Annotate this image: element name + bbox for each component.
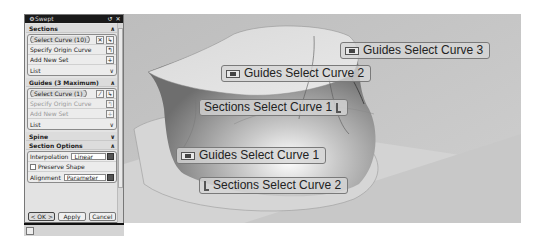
sections-select-curve[interactable]: Select Curve (10) (30, 36, 90, 43)
callout-guides-curve-2[interactable]: Guides Select Curve 2 (221, 65, 371, 82)
chevron-up-icon: ∧ (110, 79, 115, 86)
sections-select-curve-row[interactable]: Select Curve (10) ✕ ↳ (28, 35, 116, 45)
guides-list-row[interactable]: List ∨ (28, 119, 116, 129)
curve-select-icon (226, 70, 240, 78)
sections-specify-origin-row[interactable]: Specify Origin Curve ↰ (28, 45, 116, 55)
spine-group-header[interactable]: Spine ∨ (26, 132, 118, 141)
chevron-down-icon: ∨ (110, 121, 114, 128)
interpolation-select[interactable]: Linear (71, 153, 106, 160)
preserve-shape-checkbox[interactable] (30, 164, 36, 170)
origin-curve-icon[interactable]: ↰ (106, 46, 114, 54)
alignment-row: Alignment Parameter (28, 172, 116, 182)
graphics-viewport[interactable]: Guides Select Curve 3 Guides Select Curv… (124, 14, 521, 223)
curve-select-icon (181, 152, 195, 160)
dialog-titlebar[interactable]: ⚙ Swept ↺ ✕ (25, 15, 123, 23)
callout-sections-curve-2[interactable]: Sections Select Curve 2 (199, 177, 348, 194)
dialog-title: Swept (35, 15, 105, 23)
callout-sections-curve-1[interactable]: Sections Select Curve 1 (199, 99, 348, 116)
reverse-direction-icon[interactable]: ⁄ (96, 90, 104, 98)
cursor-icon (336, 103, 341, 113)
resource-bar-icon[interactable] (26, 227, 34, 235)
curve-select-icon (345, 47, 359, 55)
resource-bar (24, 225, 124, 236)
guides-specify-origin-row: Specify Origin Curve ↰ (28, 99, 116, 109)
curve-rule-icon[interactable]: ↳ (106, 90, 114, 98)
dialog-scrollbar[interactable] (117, 23, 123, 223)
chevron-up-icon: ∧ (110, 142, 115, 149)
callout-guides-curve-3[interactable]: Guides Select Curve 3 (340, 42, 490, 59)
alignment-select[interactable]: Parameter (64, 174, 106, 181)
chevron-up-icon: ∧ (110, 25, 115, 32)
sections-group: Select Curve (10) ✕ ↳ Specify Origin Cur… (27, 34, 117, 76)
dropdown-arrow-icon[interactable] (107, 174, 114, 181)
origin-curve-icon: ↰ (106, 100, 114, 108)
guides-group: Select Curve (1) ⁄ ↳ Specify Origin Curv… (27, 88, 117, 130)
close-icon[interactable]: ✕ (115, 16, 121, 22)
guides-group-header[interactable]: Guides (3 Maximum) ∧ (26, 78, 118, 87)
guides-add-new-set-row: Add New Set + (28, 109, 116, 119)
chevron-down-icon: ∨ (110, 133, 115, 140)
ok-button[interactable]: < OK > (28, 212, 55, 221)
sections-list-row[interactable]: List ∨ (28, 65, 116, 75)
reset-icon[interactable]: ↺ (107, 16, 113, 22)
reverse-direction-icon[interactable]: ✕ (96, 36, 104, 44)
scrollbar-thumb[interactable] (118, 28, 123, 188)
sections-group-header[interactable]: Sections ∧ (26, 24, 118, 33)
section-options-group: Interpolation Linear Preserve Shape Alig… (27, 151, 117, 183)
apply-button[interactable]: Apply (58, 212, 85, 221)
dialog-buttons: < OK > Apply Cancel (28, 212, 116, 221)
guides-select-curve[interactable]: Select Curve (1) (30, 90, 87, 97)
interpolation-row: Interpolation Linear (28, 152, 116, 162)
add-set-icon[interactable]: + (106, 56, 114, 64)
swept-dialog: ⚙ Swept ↺ ✕ Sections ∧ Select Curve (10)… (24, 14, 124, 223)
chevron-down-icon: ∨ (110, 67, 114, 74)
sections-add-new-set-row[interactable]: Add New Set + (28, 55, 116, 65)
guides-select-curve-row[interactable]: Select Curve (1) ⁄ ↳ (28, 89, 116, 99)
preserve-shape-row[interactable]: Preserve Shape (28, 162, 116, 172)
cancel-button[interactable]: Cancel (89, 212, 116, 221)
callout-guides-curve-1[interactable]: Guides Select Curve 1 (176, 147, 326, 164)
add-set-icon[interactable]: + (106, 110, 114, 118)
section-options-header[interactable]: Section Options ∧ (26, 141, 118, 150)
curve-rule-icon[interactable]: ↳ (106, 36, 114, 44)
cursor-icon (204, 181, 209, 191)
dropdown-arrow-icon[interactable] (107, 153, 114, 160)
